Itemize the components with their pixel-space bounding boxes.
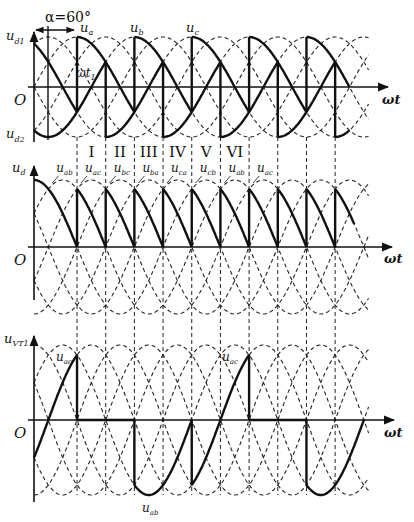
interval-label: VI <box>225 143 243 161</box>
wt-axis-mid: ωt <box>384 251 402 266</box>
wt-axis-bot: ωt <box>384 425 402 440</box>
ud1-label: ud1 <box>6 28 25 46</box>
line-voltage-label: uac <box>85 161 101 177</box>
bot-uac-label-1: uac <box>56 350 72 366</box>
uvt1-label: uVT1 <box>4 331 29 348</box>
output-waveforms-bold <box>34 37 364 495</box>
origin-top: O <box>14 91 26 109</box>
interval-label: II <box>114 143 126 161</box>
ub-label: ub <box>130 20 144 37</box>
ua-label: ua <box>80 20 93 37</box>
ud2-label: ud2 <box>6 126 25 144</box>
ud-label: ud <box>12 160 26 177</box>
interval-label: III <box>140 143 158 161</box>
origin-bot: O <box>14 424 26 442</box>
line-voltage-label: uab <box>56 161 73 177</box>
waveform-diagram: α=60° ud1 ud2 ua ub uc ωt1 O O O ωt ωt ω… <box>0 0 414 522</box>
origin-mid: O <box>14 251 26 269</box>
wt-axis-top: ωt <box>382 92 400 107</box>
line-voltage-label: uca <box>171 161 187 177</box>
line-voltage-label: uba <box>142 161 158 177</box>
interval-label: IV <box>169 143 187 161</box>
bot-uab-label: uab <box>142 501 159 517</box>
wt1-label: ωt1 <box>76 66 96 82</box>
bot-uac-label-2: uac <box>222 350 238 366</box>
interval-label: I <box>88 143 94 161</box>
line-voltage-label: uac <box>257 161 273 177</box>
firing-instant-guides <box>77 137 335 495</box>
uc-label: uc <box>186 20 199 37</box>
reference-waveforms-dashed <box>34 37 369 495</box>
line-voltage-label: ubc <box>114 161 130 177</box>
line-voltage-label: ucb <box>200 161 217 177</box>
interval-label: V <box>200 143 213 161</box>
line-voltage-label: uab <box>228 161 245 177</box>
